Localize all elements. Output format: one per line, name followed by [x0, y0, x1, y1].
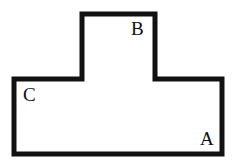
- vertex-label-b: B: [131, 19, 144, 38]
- t-shape-polygon: [14, 14, 222, 154]
- vertex-label-a: A: [200, 129, 214, 148]
- figure-canvas: B C A: [0, 0, 235, 165]
- vertex-label-c: C: [23, 85, 36, 104]
